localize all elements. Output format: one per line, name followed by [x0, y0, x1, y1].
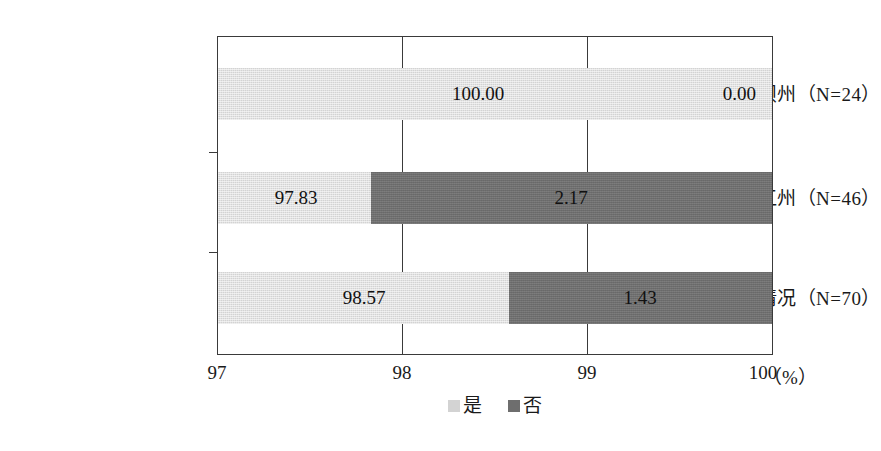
bar-value-yes: 97.83	[236, 172, 356, 224]
plot-area: 100.00 0.00 97.83 2.17 98.57 1.43	[217, 36, 773, 355]
x-axis-tick-97: 97	[182, 362, 252, 384]
bar-value-no: 0.00	[656, 68, 756, 120]
x-axis-unit-label: （%）	[763, 362, 817, 389]
x-axis-tick-99: 99	[552, 362, 622, 384]
legend-swatch-no-icon	[508, 400, 520, 412]
stacked-bar-chart-figure: 阿坝州（N=24） 怒江州（N=46） 总体情况（N=70） 100.00 0.…	[0, 0, 881, 451]
legend: 是 否	[217, 396, 773, 415]
y-axis-tick-2	[209, 252, 217, 253]
bar-value-yes: 100.00	[398, 68, 558, 120]
bar-value-no: 1.43	[580, 272, 700, 324]
legend-item-yes: 是	[448, 396, 482, 415]
legend-swatch-yes-icon	[448, 400, 460, 412]
legend-label-yes: 是	[463, 396, 482, 415]
bar-value-yes: 98.57	[304, 272, 424, 324]
legend-label-no: 否	[523, 396, 542, 415]
legend-item-no: 否	[508, 396, 542, 415]
bar-value-no: 2.17	[511, 172, 631, 224]
y-axis-tick-1	[209, 152, 217, 153]
x-axis-tick-98: 98	[367, 362, 437, 384]
